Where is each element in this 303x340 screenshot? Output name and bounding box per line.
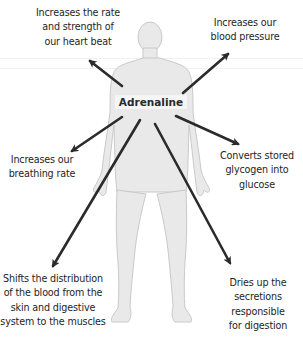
adrenaline-effects-diagram: Adrenaline Increases the rate and streng… — [0, 0, 303, 340]
effect-digestion-line: for digestion — [218, 319, 298, 333]
effect-heart: Increases the rate and strength of our h… — [18, 6, 138, 49]
effect-blood-pressure-line: Increases our — [200, 16, 290, 30]
effect-breathing: Increases our breathing rate — [2, 153, 82, 182]
effect-digestion: Dries up the secretions responsible for … — [218, 276, 298, 333]
effect-glycogen: Converts stored glycogen into glucose — [212, 149, 302, 192]
effect-breathing-line: breathing rate — [2, 167, 82, 181]
effect-heart-line: our heart beat — [18, 35, 138, 49]
effect-blood-pressure: Increases our blood pressure — [200, 16, 290, 45]
body-icon — [93, 22, 209, 322]
effect-glycogen-line: glucose — [212, 178, 302, 192]
effect-digestion-line: secretions — [218, 290, 298, 304]
effect-heart-line: Increases the rate — [18, 6, 138, 20]
effect-glycogen-line: glycogen into — [212, 163, 302, 177]
effect-blood-distribution-line: of the blood from the — [0, 286, 106, 300]
effect-digestion-line: responsible — [218, 305, 298, 319]
effect-blood-distribution-line: Shifts the distribution — [0, 272, 106, 286]
effect-blood-distribution: Shifts the distribution of the blood fro… — [0, 272, 106, 329]
effect-blood-distribution-line: system to the muscles — [0, 315, 106, 329]
effect-glycogen-line: Converts stored — [212, 149, 302, 163]
effect-breathing-line: Increases our — [2, 153, 82, 167]
adrenaline-label: Adrenaline — [115, 95, 187, 109]
effect-blood-pressure-line: blood pressure — [200, 30, 290, 44]
effect-blood-distribution-line: skin and digestive — [0, 301, 106, 315]
effect-heart-line: and strength of — [18, 20, 138, 34]
effect-digestion-line: Dries up the — [218, 276, 298, 290]
